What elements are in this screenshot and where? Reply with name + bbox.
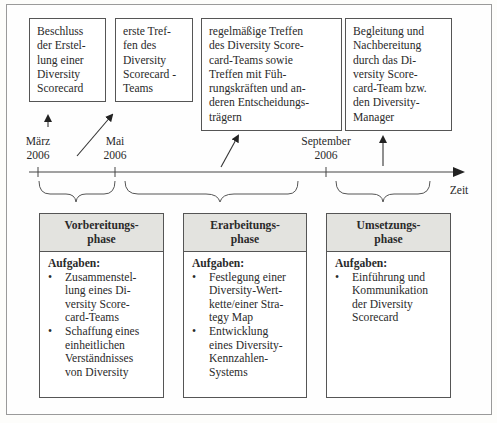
tasks-label: Aufgaben:: [192, 257, 300, 271]
phase-braces: [39, 181, 430, 202]
task-item: •Schaffung eines einheitlichen Verständn…: [48, 325, 157, 379]
bullet-icon: •: [48, 325, 60, 339]
bullet-icon: •: [335, 271, 347, 285]
time-axis: [29, 167, 465, 177]
bullet-icon: •: [48, 271, 60, 285]
phase-box-umsetzung: Umsetzungs- phase Aufgaben: •Einführung …: [326, 213, 451, 398]
event-arrows: [48, 115, 383, 167]
bullet-icon: •: [192, 325, 204, 339]
phase-box-erarbeitung: Erarbeitungs- phase Aufgaben: •Festlegun…: [183, 213, 307, 398]
task-item: •Einführung und Kommunikation der Divers…: [335, 271, 444, 325]
task-item: •Zusammenstel- lung eines Di- versity Sc…: [48, 271, 157, 325]
phase-title: Vorbereitungs- phase: [40, 214, 163, 252]
axis-arrowhead-icon: [453, 167, 465, 177]
task-item: •Entwicklung eines Diversity- Kennzahlen…: [192, 325, 300, 379]
task-item: •Festlegung einer Diversity-Wert- kette/…: [192, 271, 300, 325]
phase-title: Umsetzungs- phase: [327, 214, 450, 252]
phase-box-vorbereitung: Vorbereitungs- phase Aufgaben: •Zusammen…: [39, 213, 164, 398]
tasks-label: Aufgaben:: [335, 257, 444, 271]
phase-title: Erarbeitungs- phase: [184, 214, 306, 252]
bullet-icon: •: [192, 271, 204, 285]
tasks-label: Aufgaben:: [48, 257, 157, 271]
